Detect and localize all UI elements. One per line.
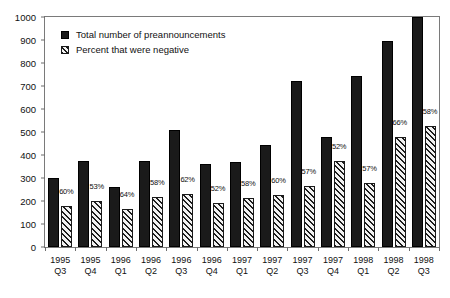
bar-total (139, 161, 150, 247)
bar-value-label: 52% (332, 142, 346, 151)
x-axis-label-year: 1996 (104, 255, 138, 266)
x-axis-label-year: 1995 (43, 255, 77, 266)
x-axis-tick-mark (287, 247, 288, 251)
bar-group: 66% (382, 17, 406, 247)
bar-percent (182, 194, 193, 247)
bar-value-label: 58% (423, 107, 437, 116)
x-axis-tick-mark (227, 247, 228, 251)
y-axis-tick-label: 900 (2, 35, 36, 46)
x-axis-tick-label: 1998Q2 (377, 255, 411, 277)
x-axis-label-quarter: Q3 (164, 266, 198, 277)
y-axis-tick-label: 800 (2, 58, 36, 69)
bar-value-label: 60% (271, 176, 285, 185)
bar-percent (273, 195, 284, 247)
bar-value-label: 52% (211, 184, 225, 193)
bar-group: 52% (321, 17, 345, 247)
bar-percent (122, 209, 133, 247)
bar-percent (425, 126, 436, 247)
bar-value-label: 57% (362, 164, 376, 173)
x-axis-tick-label: 1997Q3 (286, 255, 320, 277)
x-axis-label-quarter: Q4 (316, 266, 350, 277)
x-axis-tick-label: 1995Q4 (73, 255, 107, 277)
x-axis-tick-label: 1996Q2 (134, 255, 168, 277)
x-axis-label-quarter: Q2 (255, 266, 289, 277)
bar-group: 60% (260, 17, 284, 247)
y-axis-tick-label: 200 (2, 196, 36, 207)
bar-percent (243, 198, 254, 247)
y-axis-tick-label: 600 (2, 104, 36, 115)
legend-item-total: Total number of preannouncements (61, 28, 225, 41)
x-axis-tick-mark (409, 247, 410, 251)
x-axis-label-year: 1995 (73, 255, 107, 266)
bar-percent (61, 206, 72, 247)
x-axis-label-year: 1998 (407, 255, 441, 266)
x-axis-tick-mark (45, 247, 46, 251)
bar-percent (304, 186, 315, 247)
bar-percent (213, 203, 224, 247)
x-axis-tick-mark (378, 247, 379, 251)
x-axis-label-quarter: Q1 (346, 266, 380, 277)
x-axis-label-year: 1997 (225, 255, 259, 266)
x-axis-tick-label: 1996Q3 (164, 255, 198, 277)
y-axis-tick-label: 500 (2, 127, 36, 138)
bar-percent (152, 197, 163, 247)
bar-group: 57% (351, 17, 375, 247)
bar-total (382, 41, 393, 247)
y-axis-tick-label: 100 (2, 219, 36, 230)
x-axis-tick-mark (75, 247, 76, 251)
legend-swatch-solid-icon (61, 31, 69, 39)
bar-total (109, 187, 120, 247)
x-axis-tick-label: 1995Q3 (43, 255, 77, 277)
bar-chart: 01002003004005006007008009001000 60%53%6… (0, 0, 450, 298)
bar-value-label: 58% (150, 178, 164, 187)
bar-total (78, 161, 89, 247)
x-axis-tick-mark (348, 247, 349, 251)
x-axis-label-year: 1996 (164, 255, 198, 266)
x-axis-label-quarter: Q2 (134, 266, 168, 277)
bar-total (321, 137, 332, 247)
bar-value-label: 62% (180, 175, 194, 184)
x-axis-label-year: 1996 (134, 255, 168, 266)
x-axis-label-quarter: Q2 (377, 266, 411, 277)
bar-percent (334, 161, 345, 247)
bar-value-label: 64% (120, 190, 134, 199)
x-axis-label-quarter: Q3 (407, 266, 441, 277)
x-axis-label-quarter: Q1 (104, 266, 138, 277)
y-axis-tick-label: 400 (2, 150, 36, 161)
x-axis-label-quarter: Q1 (225, 266, 259, 277)
y-axis-tick-label: 1000 (2, 12, 36, 23)
bar-value-label: 58% (241, 179, 255, 188)
bar-total (351, 76, 362, 247)
chart-legend: Total number of preannouncements Percent… (61, 28, 225, 58)
x-axis-label-year: 1998 (346, 255, 380, 266)
x-axis-tick-label: 1996Q1 (104, 255, 138, 277)
x-axis-label-year: 1998 (377, 255, 411, 266)
legend-item-percent: Percent that were negative (61, 43, 225, 56)
bar-value-label: 60% (59, 187, 73, 196)
x-axis-label-year: 1996 (195, 255, 229, 266)
y-axis-tick-label: 300 (2, 173, 36, 184)
bar-percent (364, 183, 375, 247)
x-axis-tick-mark (197, 247, 198, 251)
x-axis-tick-mark (106, 247, 107, 251)
bar-total (291, 81, 302, 247)
legend-swatch-hatch-icon (61, 46, 69, 54)
bar-total (260, 145, 271, 247)
legend-label-percent: Percent that were negative (76, 44, 189, 55)
x-axis-tick-mark (136, 247, 137, 251)
bar-percent (91, 201, 102, 247)
x-axis-tick-label: 1997Q2 (255, 255, 289, 277)
x-axis-label-quarter: Q3 (43, 266, 77, 277)
bar-value-label: 66% (393, 118, 407, 127)
bar-total (230, 162, 241, 247)
y-axis-tick-label: 0 (2, 242, 36, 253)
x-axis-tick-label: 1998Q3 (407, 255, 441, 277)
bar-total (169, 130, 180, 247)
legend-label-total: Total number of preannouncements (76, 29, 225, 40)
bar-group: 58% (230, 17, 254, 247)
x-axis-tick-mark (318, 247, 319, 251)
x-axis-tick-label: 1997Q4 (316, 255, 350, 277)
bar-value-label: 53% (89, 182, 103, 191)
x-axis-label-quarter: Q4 (73, 266, 107, 277)
bar-group: 57% (291, 17, 315, 247)
